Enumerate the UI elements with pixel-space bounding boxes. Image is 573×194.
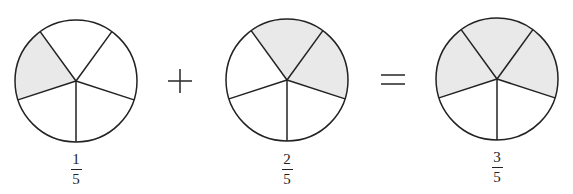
numerator: 3 xyxy=(482,150,512,167)
fraction-label-1: 1 5 xyxy=(61,152,91,187)
denominator: 5 xyxy=(272,170,302,187)
pie-chart-1 xyxy=(15,20,137,142)
pie-group xyxy=(15,18,558,142)
fraction-label-3: 3 5 xyxy=(482,150,512,185)
denominator: 5 xyxy=(61,170,91,187)
denominator: 5 xyxy=(482,168,512,185)
pie-divider xyxy=(76,32,112,81)
pie-divider xyxy=(76,81,134,100)
plus-sign xyxy=(168,69,192,93)
numerator: 2 xyxy=(272,152,302,169)
pie-chart-3 xyxy=(436,18,558,140)
pie-chart-2 xyxy=(226,19,348,141)
shaded-slice xyxy=(15,32,76,100)
pie-divider xyxy=(229,80,287,99)
fraction-label-2: 2 5 xyxy=(272,152,302,187)
equals-sign xyxy=(381,75,405,84)
numerator: 1 xyxy=(61,152,91,169)
